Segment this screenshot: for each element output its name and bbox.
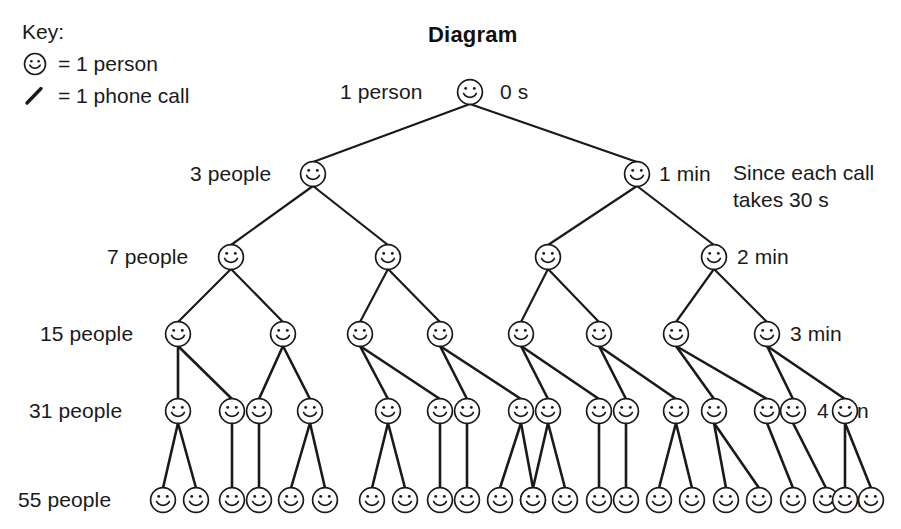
node-eye-left: [787, 406, 790, 409]
node-eye-left: [527, 495, 530, 498]
node-eye-left: [434, 495, 437, 498]
person-node-smiley-face-icon: [428, 322, 453, 347]
phone-call-edge: [163, 423, 178, 488]
phone-call-edge: [178, 346, 232, 399]
node-eye-left: [225, 252, 228, 255]
person-node-smiley-face-icon: [166, 399, 191, 424]
node-eye-left: [226, 495, 229, 498]
node-eye-right: [443, 329, 446, 332]
node-eye-left: [515, 406, 518, 409]
phone-call-tree: [0, 0, 901, 529]
node-eye-right: [443, 406, 446, 409]
node-eye-left: [461, 495, 464, 498]
person-node-smiley-face-icon: [702, 245, 727, 270]
person-node-smiley-face-icon: [647, 488, 672, 513]
person-node-smiley-face-icon: [614, 488, 639, 513]
phone-call-edge: [313, 104, 470, 162]
phone-call-edge: [283, 346, 310, 399]
person-node-smiley-face-icon: [219, 245, 244, 270]
node-eye-left: [620, 495, 623, 498]
person-node-smiley-face-icon: [220, 399, 245, 424]
node-eye-right: [640, 169, 643, 172]
phone-call-edge: [676, 423, 692, 488]
person-node-smiley-face-icon: [755, 322, 780, 347]
node-eye-right: [602, 329, 605, 332]
node-eye-left: [653, 495, 656, 498]
node-eye-right: [503, 495, 506, 498]
node-eye-right: [602, 406, 605, 409]
person-node-smiley-face-icon: [348, 322, 373, 347]
node-eye-right: [235, 495, 238, 498]
node-eye-right: [363, 329, 366, 332]
node-eye-right: [181, 406, 184, 409]
node-eye-left: [631, 169, 634, 172]
node-eye-right: [551, 406, 554, 409]
phone-call-edge: [637, 186, 714, 245]
node-eye-left: [753, 495, 756, 498]
person-node-smiley-face-icon: [151, 488, 176, 513]
person-node-smiley-face-icon: [166, 322, 191, 347]
node-eye-left: [172, 406, 175, 409]
node-eye-right: [262, 406, 265, 409]
node-eye-left: [761, 329, 764, 332]
person-node-smiley-face-icon: [313, 488, 338, 513]
node-eye-right: [551, 252, 554, 255]
phone-call-edge: [521, 269, 548, 322]
node-eye-left: [307, 169, 310, 172]
phone-call-edge: [676, 346, 767, 399]
phone-call-edge: [714, 269, 767, 322]
person-node-smiley-face-icon: [455, 399, 480, 424]
node-eye-right: [770, 329, 773, 332]
person-node-smiley-face-icon: [714, 488, 739, 513]
person-node-smiley-face-icon: [553, 488, 578, 513]
tree-edges: [163, 104, 871, 488]
node-eye-left: [865, 495, 868, 498]
node-eye-right: [729, 495, 732, 498]
person-node-smiley-face-icon: [536, 399, 561, 424]
phone-call-edge: [659, 423, 676, 488]
node-eye-left: [761, 406, 764, 409]
person-node-smiley-face-icon: [664, 399, 689, 424]
person-node-smiley-face-icon: [279, 488, 304, 513]
node-eye-right: [313, 406, 316, 409]
person-node-smiley-face-icon: [247, 399, 272, 424]
person-node-smiley-face-icon: [587, 399, 612, 424]
phone-call-edge: [599, 346, 676, 399]
node-eye-right: [796, 495, 799, 498]
node-eye-right: [629, 495, 632, 498]
tree-nodes: [151, 80, 884, 513]
node-eye-left: [708, 252, 711, 255]
person-node-smiley-face-icon: [859, 488, 884, 513]
phone-call-edge: [231, 269, 283, 322]
person-node-smiley-face-icon: [833, 488, 858, 513]
person-node-smiley-face-icon: [509, 322, 534, 347]
person-node-smiley-face-icon: [220, 488, 245, 513]
node-eye-right: [470, 406, 473, 409]
node-eye-right: [602, 495, 605, 498]
node-eye-right: [695, 495, 698, 498]
node-eye-left: [461, 406, 464, 409]
node-eye-left: [593, 406, 596, 409]
node-eye-left: [434, 329, 437, 332]
person-node-smiley-face-icon: [376, 399, 401, 424]
node-eye-left: [720, 495, 723, 498]
person-node-smiley-face-icon: [614, 399, 639, 424]
node-eye-right: [262, 495, 265, 498]
phone-call-edge: [767, 423, 793, 488]
person-node-smiley-face-icon: [747, 488, 772, 513]
node-eye-left: [434, 406, 437, 409]
phone-call-edge: [470, 104, 637, 162]
phone-call-edge: [178, 423, 196, 488]
phone-call-edge: [548, 423, 565, 488]
person-node-smiley-face-icon: [781, 488, 806, 513]
node-eye-right: [848, 495, 851, 498]
node-eye-right: [568, 495, 571, 498]
node-eye-right: [717, 406, 720, 409]
person-node-smiley-face-icon: [301, 162, 326, 187]
node-eye-right: [874, 495, 877, 498]
node-eye-left: [559, 495, 562, 498]
phone-call-edge: [291, 423, 310, 488]
node-eye-left: [708, 406, 711, 409]
node-eye-right: [470, 495, 473, 498]
node-eye-right: [286, 329, 289, 332]
